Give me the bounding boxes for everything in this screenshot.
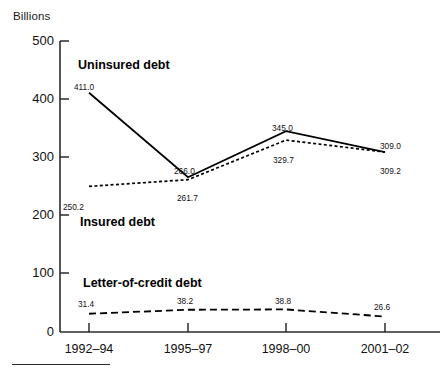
series-line-uninsured-debt bbox=[89, 93, 385, 177]
point-label-insured-2001-02: 309.2 bbox=[380, 166, 401, 176]
point-label-letter-of-credit-1995-97: 38.2 bbox=[177, 296, 193, 306]
line-chart: Billions 500 400 300 200 100 0 1992–94 1… bbox=[0, 0, 447, 375]
point-label-uninsured-1992-94: 411.0 bbox=[74, 82, 94, 92]
point-label-uninsured-2001-02: 309.0 bbox=[380, 141, 401, 151]
series-label-uninsured-debt: Uninsured debt bbox=[78, 58, 170, 72]
point-label-insured-1992-94: 250.2 bbox=[63, 202, 84, 212]
footnote-separator bbox=[12, 364, 110, 365]
point-label-uninsured-1995-97: 266.0 bbox=[174, 166, 195, 176]
point-label-letter-of-credit-1998-00: 38.8 bbox=[275, 296, 291, 306]
point-label-uninsured-1998-00: 345.0 bbox=[272, 123, 293, 133]
point-label-letter-of-credit-1992-94: 31.4 bbox=[78, 299, 94, 309]
series-line-insured-debt bbox=[89, 140, 385, 186]
series-label-letter-of-credit-debt: Letter-of-credit debt bbox=[83, 276, 202, 290]
series-label-insured-debt: Insured debt bbox=[80, 215, 155, 229]
series-line-letter-of-credit-debt bbox=[89, 309, 385, 316]
point-label-insured-1998-00: 329.7 bbox=[273, 155, 294, 165]
plot-area bbox=[0, 0, 447, 375]
point-label-letter-of-credit-2001-02: 26.6 bbox=[374, 302, 390, 312]
point-label-insured-1995-97: 261.7 bbox=[177, 193, 198, 203]
